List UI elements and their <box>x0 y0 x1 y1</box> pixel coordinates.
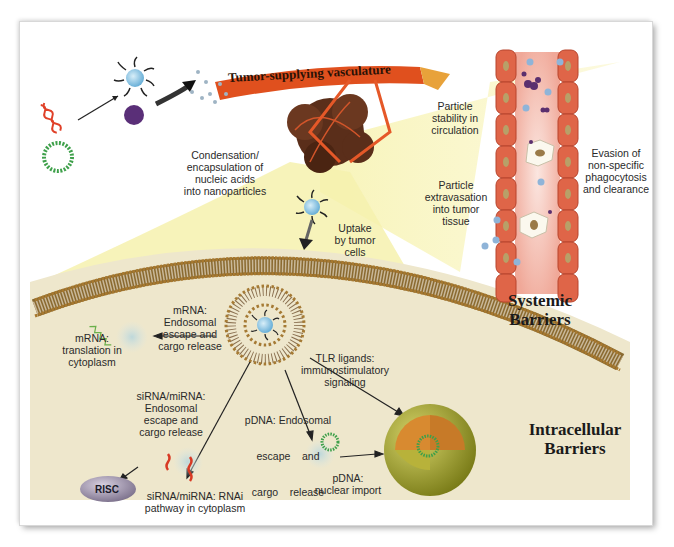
label-mrna-escape: mRNA: Endosomal escape and cargo release <box>150 304 230 352</box>
figure-frame: Tumor-supplying vasculature Condensation… <box>20 22 652 525</box>
nucleus <box>384 404 476 496</box>
systemic-barriers-title: Systemic Barriers <box>495 291 585 329</box>
label-pdna-escape: pDNA: Endosomal escape and cargo release <box>242 390 334 522</box>
polyplex-icon <box>124 105 144 125</box>
pdna-plasmid-icon <box>44 143 72 171</box>
label-sirna-escape: siRNA/miRNA: Endosomal escape and cargo … <box>128 390 214 438</box>
intracellular-barriers-title: Intracellular Barriers <box>520 420 630 458</box>
label-sirna-rnai: siRNA/miRNA: RNAi pathway in cytoplasm <box>140 490 250 514</box>
label-condensation: Condensation/ encapsulation of nucleic a… <box>170 149 280 197</box>
lipid-nanoparticle-icon <box>114 57 154 96</box>
label-extravasation: Particle extravasation into tumor tissue <box>418 179 494 227</box>
risc-label: RISC <box>92 484 122 496</box>
label-evasion: Evasion of non-specific phagocytosis and… <box>576 147 656 195</box>
mrna-strand-icon <box>39 102 63 134</box>
label-tlr: TLR ligands: immunostimulatory signaling <box>290 352 400 388</box>
label-stability: Particle stability in circulation <box>420 100 490 136</box>
label-uptake: Uptake by tumor cells <box>325 222 385 258</box>
label-pdna-import: pDNA: nuclear import <box>308 472 388 496</box>
label-mrna-translation: mRNA: translation in cytoplasm <box>52 332 132 368</box>
